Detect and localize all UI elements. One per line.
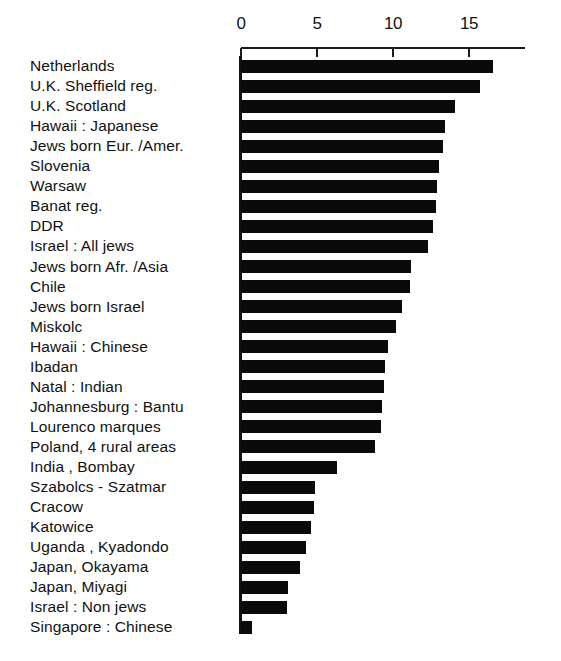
- bar: [241, 200, 436, 213]
- bar: [241, 581, 288, 594]
- chart-row: Japan, Miyagi: [0, 577, 561, 597]
- bar: [241, 100, 455, 113]
- bar: [241, 340, 388, 353]
- axis-tick-label: 10: [384, 14, 402, 34]
- bar: [241, 160, 439, 173]
- chart-row: Uganda , Kyadondo: [0, 537, 561, 557]
- bar-category-label: Uganda , Kyadondo: [30, 537, 235, 557]
- chart-row: U.K. Sheffield reg.: [0, 76, 561, 96]
- bar-category-label: Netherlands: [30, 56, 235, 76]
- bar-category-label: Katowice: [30, 517, 235, 537]
- horizontal-bar-chart: 051015 NetherlandsU.K. Sheffield reg.U.K…: [0, 0, 561, 661]
- bar-category-label: Slovenia: [30, 156, 235, 176]
- bar: [241, 461, 337, 474]
- bar: [241, 120, 445, 133]
- chart-row: Chile: [0, 277, 561, 297]
- bar-category-label: Warsaw: [30, 176, 235, 196]
- bar-category-label: Jews born Afr. /Asia: [30, 257, 235, 277]
- bar-category-label: India , Bombay: [30, 457, 235, 477]
- bar-category-label: Szabolcs - Szatmar: [30, 477, 235, 497]
- bar-category-label: Israel : All jews: [30, 236, 235, 256]
- chart-x-axis: 051015: [0, 0, 561, 56]
- bar: [241, 60, 493, 73]
- bar-category-label: DDR: [30, 216, 235, 236]
- chart-row: Israel : Non jews: [0, 597, 561, 617]
- chart-row: Banat reg.: [0, 196, 561, 216]
- axis-line: [241, 47, 525, 49]
- chart-row: Jews born Afr. /Asia: [0, 257, 561, 277]
- chart-row: Poland, 4 rural areas: [0, 437, 561, 457]
- chart-row: Hawaii : Chinese: [0, 337, 561, 357]
- chart-row: Cracow: [0, 497, 561, 517]
- chart-row: Katowice: [0, 517, 561, 537]
- bar-category-label: Japan, Miyagi: [30, 577, 235, 597]
- bar: [241, 601, 287, 614]
- bar: [241, 300, 402, 313]
- bar: [241, 280, 410, 293]
- axis-tick-label: 0: [237, 14, 246, 34]
- bar: [241, 561, 300, 574]
- chart-row: Singapore : Chinese: [0, 617, 561, 637]
- bar: [241, 400, 382, 413]
- axis-tick-label: 15: [460, 14, 478, 34]
- chart-row: Lourenco marques: [0, 417, 561, 437]
- bar-category-label: Lourenco marques: [30, 417, 235, 437]
- bar: [241, 440, 375, 453]
- chart-row: Miskolc: [0, 317, 561, 337]
- chart-row: Israel : All jews: [0, 236, 561, 256]
- chart-row: Hawaii : Japanese: [0, 116, 561, 136]
- bar-category-label: Johannesburg : Bantu: [30, 397, 235, 417]
- bar: [241, 320, 396, 333]
- chart-row: Johannesburg : Bantu: [0, 397, 561, 417]
- bar: [241, 541, 306, 554]
- axis-tick-label: 5: [313, 14, 322, 34]
- bar-category-label: U.K. Scotland: [30, 96, 235, 116]
- bar-category-label: Chile: [30, 277, 235, 297]
- bar-category-label: Jews born Israel: [30, 297, 235, 317]
- bar: [241, 481, 315, 494]
- bar: [241, 380, 384, 393]
- chart-row: DDR: [0, 216, 561, 236]
- bar-category-label: Japan, Okayama: [30, 557, 235, 577]
- bar-category-label: Ibadan: [30, 357, 235, 377]
- bar: [241, 220, 433, 233]
- bar: [241, 360, 385, 373]
- bar-category-label: Natal : Indian: [30, 377, 235, 397]
- bar: [241, 501, 314, 514]
- chart-row: Slovenia: [0, 156, 561, 176]
- bar: [241, 240, 428, 253]
- chart-row: Ibadan: [0, 357, 561, 377]
- bar: [241, 80, 480, 93]
- chart-row: Natal : Indian: [0, 377, 561, 397]
- bar: [241, 420, 381, 433]
- bar: [241, 140, 443, 153]
- chart-row: Szabolcs - Szatmar: [0, 477, 561, 497]
- bar-category-label: Singapore : Chinese: [30, 617, 235, 637]
- chart-row: India , Bombay: [0, 457, 561, 477]
- bar: [241, 621, 252, 634]
- bar-category-label: Miskolc: [30, 317, 235, 337]
- chart-row: Netherlands: [0, 56, 561, 76]
- bar-category-label: Israel : Non jews: [30, 597, 235, 617]
- bar-category-label: Banat reg.: [30, 196, 235, 216]
- bar: [241, 521, 311, 534]
- chart-row: Jews born Eur. /Amer.: [0, 136, 561, 156]
- bar-category-label: Jews born Eur. /Amer.: [30, 136, 235, 156]
- chart-row: U.K. Scotland: [0, 96, 561, 116]
- chart-plot-area: NetherlandsU.K. Sheffield reg.U.K. Scotl…: [0, 56, 561, 636]
- bar-category-label: Poland, 4 rural areas: [30, 437, 235, 457]
- bar: [241, 260, 411, 273]
- bar: [241, 180, 437, 193]
- chart-row: Warsaw: [0, 176, 561, 196]
- chart-row: Jews born Israel: [0, 297, 561, 317]
- bar-category-label: Hawaii : Japanese: [30, 116, 235, 136]
- bar-category-label: Cracow: [30, 497, 235, 517]
- bar-category-label: U.K. Sheffield reg.: [30, 76, 235, 96]
- chart-row: Japan, Okayama: [0, 557, 561, 577]
- bar-category-label: Hawaii : Chinese: [30, 337, 235, 357]
